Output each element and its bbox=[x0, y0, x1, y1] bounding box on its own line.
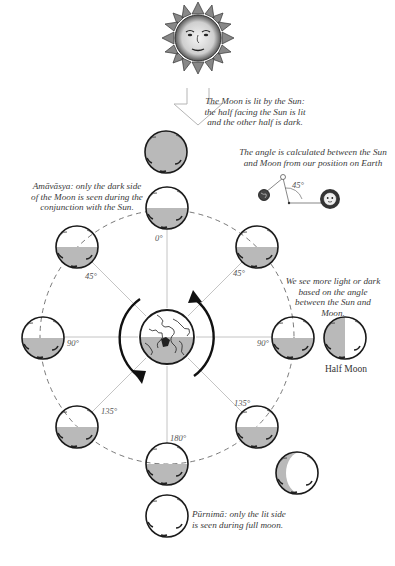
angle-inset: 45° bbox=[259, 175, 341, 210]
angle-label-90-right: 90° bbox=[257, 338, 270, 348]
note-more-light: We see more light or dark based on the a… bbox=[284, 276, 382, 318]
note-angle-calc: The angle is calculated between the Sun … bbox=[238, 147, 388, 168]
note-lit-by-sun: The Moon is lit by the Sun: the half fac… bbox=[199, 96, 311, 128]
crescent-moon bbox=[276, 451, 320, 495]
moon-0deg bbox=[146, 187, 188, 230]
half-moon bbox=[324, 316, 366, 360]
note-purnima: Pūrnimā: only the lit side is seen durin… bbox=[192, 509, 288, 530]
moon-180deg bbox=[146, 443, 188, 486]
full-moon bbox=[146, 495, 188, 537]
angle-label-135-left: 135° bbox=[101, 406, 118, 416]
dark-moon-top bbox=[145, 131, 187, 173]
angle-label-90-left: 90° bbox=[67, 338, 80, 348]
moon-45deg-right bbox=[236, 226, 278, 269]
earth-icon bbox=[140, 310, 194, 365]
angle-label-135-right: 135° bbox=[234, 398, 251, 408]
angle-label-45-left: 45° bbox=[85, 271, 98, 281]
sun-icon bbox=[162, 2, 234, 74]
moon-135deg-left bbox=[56, 406, 98, 449]
moon-90deg-left bbox=[22, 317, 64, 360]
inset-sun-icon bbox=[320, 189, 340, 209]
moon-135deg-right bbox=[236, 406, 278, 449]
angle-label-45-right: 45° bbox=[233, 268, 246, 278]
inset-earth-icon bbox=[259, 190, 270, 201]
inset-moon-icon bbox=[281, 175, 286, 180]
moon-45deg-left bbox=[56, 226, 98, 269]
angle-label-180: 180° bbox=[170, 433, 187, 443]
angle-label-0: 0° bbox=[155, 233, 163, 243]
inset-angle-label: 45° bbox=[292, 180, 305, 190]
note-amavasya: Amāvāsya: only the dark side of the Moon… bbox=[28, 181, 146, 213]
half-moon-label: Half Moon bbox=[325, 364, 367, 374]
